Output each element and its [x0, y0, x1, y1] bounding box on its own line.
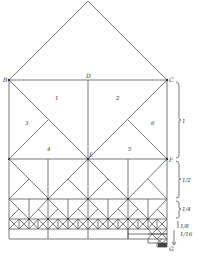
region-label-1: 1 [55, 95, 59, 101]
point-label-g: G [169, 245, 174, 252]
scale-label-eighth: 1/8 [180, 223, 189, 229]
fractal-square-diagram: B D C E F G 1 2 3 4 5 6 1 1/2 1/4 1/8 1/… [0, 0, 199, 260]
region-label-6: 6 [151, 120, 155, 126]
point-label-b: B [2, 76, 8, 83]
scale-brackets [172, 82, 181, 245]
region-label-4: 4 [46, 146, 51, 152]
unit-square [9, 80, 167, 247]
scale-label-half: 1/2 [182, 177, 191, 183]
region-label-3: 3 [25, 120, 29, 126]
point-label-c: C [169, 76, 174, 83]
region-label-5: 5 [128, 146, 132, 152]
point-label-e: E [88, 151, 94, 158]
convergence-cluster [158, 243, 167, 247]
point-label-f: F [168, 156, 174, 163]
region-label-2: 2 [115, 95, 120, 101]
scale-label-1: 1 [182, 118, 186, 124]
point-label-d: D [85, 72, 91, 79]
scale-label-quarter: 1/4 [182, 206, 191, 212]
roof-triangle [9, 1, 167, 80]
scale-label-sixteenth: 1/16 [180, 231, 193, 237]
